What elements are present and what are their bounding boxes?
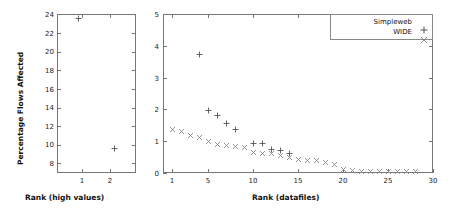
data-point-wide [349,167,356,174]
data-point-wide [223,142,230,149]
data-point-wide [178,128,185,135]
data-point-wide [412,168,419,175]
data-point-wide [394,168,401,175]
data-point-wide [376,168,383,175]
data-point-wide [241,144,248,151]
data-point-wide [358,168,365,175]
data-point-simpleweb [250,140,257,147]
data-point-wide [268,150,275,157]
data-point-simpleweb [196,51,203,58]
data-point-wide [196,134,203,141]
data-point-simpleweb [111,145,118,152]
data-point-wide [367,168,374,175]
data-point-simpleweb [75,15,82,22]
data-point-wide [277,152,284,159]
data-point-wide [205,138,212,145]
data-point-wide [340,166,347,173]
data-point-wide [403,168,410,175]
data-point-wide [232,143,239,150]
data-point-wide [304,157,311,164]
data-point-simpleweb [277,147,284,154]
figure-root: 24 22 20 18 16 14 12 10 8 1 2 R [0,0,458,215]
data-point-wide [214,141,221,148]
left-data-markers [0,0,155,215]
data-point-simpleweb [286,150,293,157]
data-point-wide [385,168,392,175]
data-point-wide [313,157,320,164]
data-point-simpleweb [223,120,230,127]
data-point-simpleweb [259,140,266,147]
data-point-wide [295,156,302,163]
left-panel: 24 22 20 18 16 14 12 10 8 1 2 R [0,0,155,215]
data-point-wide [331,161,338,168]
right-panel: 5 4 3 2 1 0 1 5 10 15 20 25 30 [155,0,458,215]
data-point-wide [187,132,194,139]
data-point-wide [259,150,266,157]
data-point-wide [169,126,176,133]
data-point-simpleweb [232,126,239,133]
data-point-simpleweb [268,146,275,153]
data-point-simpleweb [214,112,221,119]
data-point-simpleweb [205,107,212,114]
data-point-wide [322,159,329,166]
right-data-markers [155,0,458,215]
data-point-wide [250,149,257,156]
data-point-wide [286,154,293,161]
